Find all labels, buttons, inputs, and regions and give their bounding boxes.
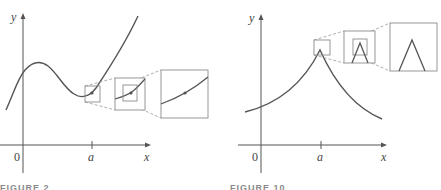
y-axis-label: y <box>11 11 16 23</box>
point-a-3 <box>183 91 186 94</box>
zoom-box-3 <box>390 23 437 71</box>
y-axis-arrow-icon <box>21 13 26 19</box>
tick-label-a: a <box>88 151 94 163</box>
x-axis-label: x <box>144 151 149 163</box>
figure-2-graph <box>0 0 220 190</box>
figure-caption: FIGURE 2 <box>0 184 50 190</box>
point-a-2 <box>129 91 132 94</box>
y-axis-arrow-icon <box>259 14 264 20</box>
x-axis-label: x <box>381 151 386 163</box>
figure-2: y 0 a x FIGURE 2 <box>0 0 220 190</box>
x-axis-arrow-icon <box>145 143 151 148</box>
figure-caption: FIGURE 10 <box>230 184 286 190</box>
figure-10: y 0 a x FIGURE 10 <box>220 0 441 190</box>
origin-label: 0 <box>14 151 20 163</box>
origin-label: 0 <box>252 151 258 163</box>
zoom-box-2 <box>344 31 375 63</box>
tick-label-a: a <box>317 151 323 163</box>
x-axis-arrow-icon <box>381 143 387 148</box>
point-a-1 <box>90 91 93 94</box>
y-axis-label: y <box>249 12 254 24</box>
